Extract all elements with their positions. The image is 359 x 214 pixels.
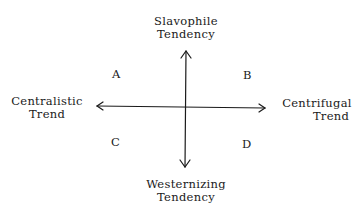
vertical-axis-line	[185, 51, 186, 167]
axis-label-slavophile-tendency: Slavophile Tendency	[146, 15, 226, 41]
axis-label-centralistic-trend: Centralistic Trend	[4, 95, 90, 121]
quadrant-label-c: C	[111, 136, 120, 148]
axis-label-line: Trend	[274, 110, 359, 123]
axis-label-line: Tendency	[137, 191, 235, 204]
axis-label-line: Trend	[4, 108, 90, 121]
quadrant-label-d: D	[242, 138, 251, 150]
horizontal-axis-line	[97, 106, 265, 108]
axis-label-centrifugal-trend: Centrifugal Trend	[274, 97, 359, 123]
quadrant-label-b: B	[243, 69, 251, 81]
axis-label-line: Tendency	[146, 28, 226, 41]
two-axis-tendency-diagram: Slavophile Tendency Westernizing Tendenc…	[0, 0, 359, 214]
quadrant-label-a: A	[112, 68, 120, 80]
axis-label-westernizing-tendency: Westernizing Tendency	[137, 178, 235, 204]
